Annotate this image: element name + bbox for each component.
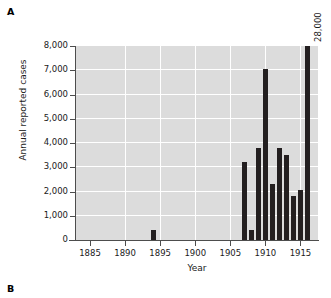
gridline-horizontal: [76, 69, 318, 70]
gridline-vertical: [160, 46, 161, 240]
y-axis-tick-label: 0: [63, 234, 68, 244]
y-axis-tick-mark: [70, 240, 75, 241]
bar: [270, 184, 275, 240]
gridline-horizontal: [76, 94, 318, 95]
bar: [284, 155, 289, 240]
x-axis-tick-mark: [195, 241, 196, 246]
bar: [298, 190, 303, 240]
y-axis-tick-mark: [70, 192, 75, 193]
bar: [263, 69, 268, 240]
y-axis-tick-mark: [70, 143, 75, 144]
truncated-bar-value-label: 28,000: [313, 12, 323, 42]
x-axis-tick-label: 1900: [175, 248, 215, 258]
y-axis-tick-label: 7,000: [44, 64, 68, 74]
gridline-vertical: [125, 46, 126, 240]
y-axis-tick-label: 2,000: [44, 186, 68, 196]
gridline-horizontal: [76, 118, 318, 119]
panel-label-a: A: [7, 6, 15, 17]
bar: [277, 148, 282, 240]
y-axis-tick-mark: [70, 119, 75, 120]
gridline-vertical: [195, 46, 196, 240]
x-axis-tick-label: 1910: [245, 248, 285, 258]
gridline-vertical: [230, 46, 231, 240]
y-axis-tick-label: 6,000: [44, 89, 68, 99]
x-axis-tick-mark: [265, 241, 266, 246]
x-axis-tick-label: 1890: [105, 248, 145, 258]
panel-label-b: B: [7, 283, 14, 294]
y-axis-tick-label: 4,000: [44, 137, 68, 147]
x-axis-tick-label: 1895: [140, 248, 180, 258]
y-axis-tick-label: 8,000: [44, 40, 68, 50]
gridline-horizontal: [76, 142, 318, 143]
y-axis-tick-label: 5,000: [44, 113, 68, 123]
bar: [151, 230, 156, 240]
y-axis-tick-mark: [70, 70, 75, 71]
x-axis-tick-label: 1915: [280, 248, 320, 258]
x-axis-tick-mark: [160, 241, 161, 246]
bar: [291, 196, 296, 240]
y-axis-tick-label: 1,000: [44, 210, 68, 220]
x-axis-tick-mark: [125, 241, 126, 246]
x-axis-tick-label: 1905: [210, 248, 250, 258]
x-axis-tick-mark: [90, 241, 91, 246]
plot-area: [76, 46, 318, 240]
y-axis-tick-mark: [70, 95, 75, 96]
y-axis-tick-mark: [70, 216, 75, 217]
y-axis-tick-mark: [70, 46, 75, 47]
y-axis-tick-mark: [70, 167, 75, 168]
y-axis-tick-label: 3,000: [44, 161, 68, 171]
bar: [256, 148, 261, 240]
x-axis-tick-mark: [230, 241, 231, 246]
x-axis-tick-label: 1885: [70, 248, 110, 258]
y-axis-title: Annual reported cases: [18, 40, 28, 180]
figure-panel-a: A B 28,000 01,0002,0003,0004,0005,0006,0…: [0, 0, 331, 298]
x-axis-line: [69, 240, 319, 241]
y-axis-line: [75, 46, 76, 241]
x-axis-tick-mark: [300, 241, 301, 246]
bar: [249, 230, 254, 240]
bar: [305, 46, 310, 240]
bar: [242, 162, 247, 240]
x-axis-title: Year: [76, 263, 318, 273]
